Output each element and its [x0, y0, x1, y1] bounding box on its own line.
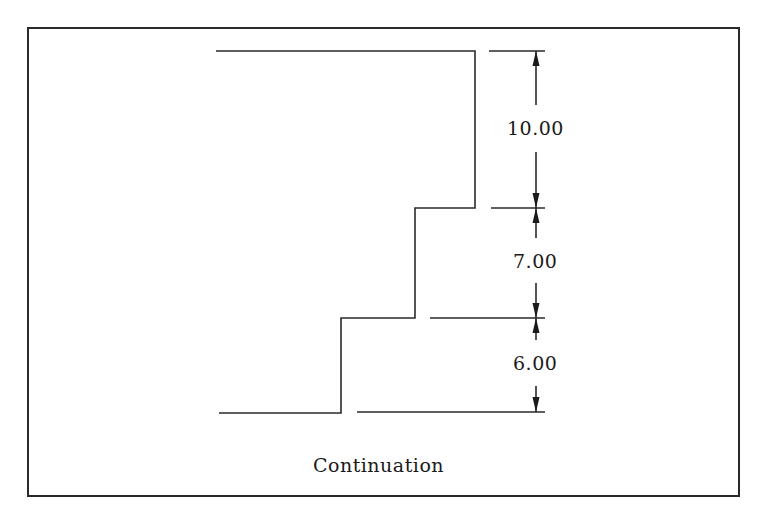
arrow-up-icon — [533, 208, 540, 223]
dimension-label-2: 7.00 — [511, 250, 559, 272]
dimension-label-3: 6.00 — [511, 352, 559, 374]
arrow-down-icon — [533, 397, 540, 412]
stepped-profile-drawing — [0, 0, 757, 516]
arrow-down-icon — [533, 303, 540, 318]
arrow-down-icon — [533, 193, 540, 208]
figure-caption: Continuation — [0, 454, 757, 476]
profile-outline — [216, 51, 475, 413]
dimension-label-1: 10.00 — [505, 117, 566, 139]
arrow-up-icon — [533, 51, 540, 66]
arrow-up-icon — [533, 318, 540, 333]
